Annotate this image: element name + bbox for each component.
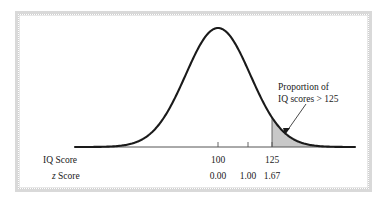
annotation-text-line-2: IQ scores > 125 <box>278 95 339 105</box>
tick-label-z-0.00: 0.00 <box>210 172 227 182</box>
z-score-word: Score <box>56 171 80 181</box>
tick-label-z-1.00: 1.00 <box>240 172 257 182</box>
x-axis-tick-marks <box>218 142 272 147</box>
figure-container: IQ Score z Score Proportion of IQ scores… <box>0 0 387 207</box>
row-label-z-score: z Score <box>52 172 80 182</box>
annotation-leader-line <box>283 104 306 135</box>
annotation-text-line-1: Proportion of <box>278 83 329 93</box>
tick-label-iq-125: 125 <box>265 156 279 166</box>
row-label-iq-score: IQ Score <box>43 156 77 166</box>
tick-label-iq-100: 100 <box>211 156 225 166</box>
tick-label-z-1.67: 1.67 <box>264 172 281 182</box>
